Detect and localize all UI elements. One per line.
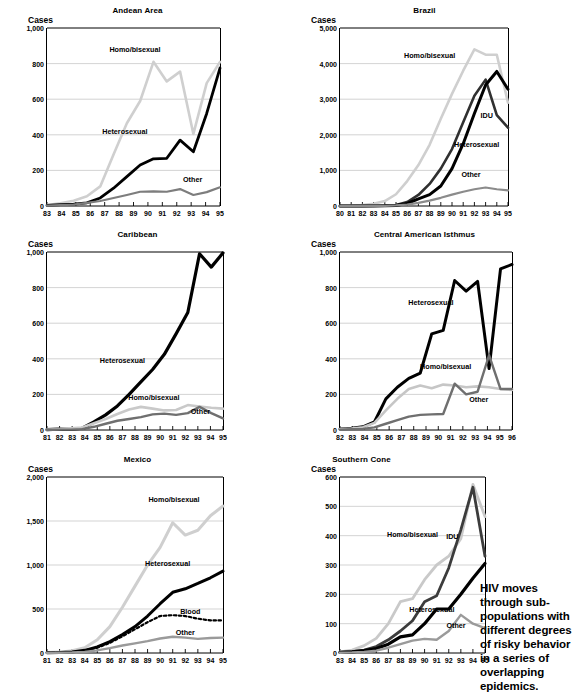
x-tick-label: 91 (169, 657, 177, 664)
x-tick-label: 94 (493, 210, 501, 217)
x-tick-label: 92 (181, 657, 189, 664)
x-tick-label: 82 (56, 657, 64, 664)
series-line (340, 71, 508, 206)
y-tick-label: 0 (40, 203, 44, 210)
x-tick-label: 94 (484, 434, 492, 441)
x-tick-label: 80 (336, 210, 344, 217)
x-tick-label: 87 (119, 657, 127, 664)
x-tick-label: 84 (81, 434, 89, 441)
plot-svg (47, 252, 223, 430)
chart-panel-brazil: Brazil Cases 01,0002,0003,0004,0005,0008… (291, 6, 582, 216)
y-tick-label: 5,000 (319, 25, 337, 32)
x-tick-label: 95 (219, 657, 227, 664)
x-tick-label: 84 (348, 657, 356, 664)
chart-panel-andean-area: Andean Area Cases 02004006008001,0008384… (0, 6, 291, 216)
x-tick-label: 84 (81, 657, 89, 664)
x-tick-label: 87 (119, 434, 127, 441)
chart-panel-mexico: Mexico Cases 05001,0001,5002,00081828384… (0, 455, 291, 654)
series-label: Other (191, 407, 210, 416)
x-tick-label: 86 (385, 434, 393, 441)
x-tick-label: 82 (358, 210, 366, 217)
y-tick-label: 200 (32, 167, 44, 174)
chart-title: Central American Isthmus (279, 230, 570, 239)
plot-area-mexico: 05001,0001,5002,000818283848586878889909… (46, 477, 224, 653)
y-tick-label: 600 (325, 320, 337, 327)
x-tick-label: 90 (448, 210, 456, 217)
series-label: Other (176, 628, 195, 637)
x-tick-label: 84 (381, 210, 389, 217)
x-tick-label: 83 (68, 657, 76, 664)
series-label: Blood (180, 607, 200, 616)
y-tick-label: 800 (325, 284, 337, 291)
y-tick-label: 0 (40, 427, 44, 434)
x-tick-label: 85 (392, 210, 400, 217)
x-tick-label: 82 (336, 434, 344, 441)
series-label: Heterosexual (454, 140, 499, 149)
x-tick-label: 92 (459, 434, 467, 441)
x-tick-label: 89 (437, 210, 445, 217)
y-axis-name: Cases (28, 464, 53, 474)
series-label: Homo/bisexual (148, 495, 199, 504)
series-line (47, 615, 223, 653)
series-line (47, 253, 223, 430)
x-tick-label: 87 (384, 657, 392, 664)
figure-caption: HIV moves through sub-populations with d… (480, 581, 580, 693)
y-tick-label: 4,000 (319, 60, 337, 67)
x-tick-label: 88 (131, 657, 139, 664)
y-axis-name: Cases (311, 15, 336, 25)
x-tick-label: 88 (131, 434, 139, 441)
series-label: Other (461, 170, 480, 179)
x-tick-label: 87 (101, 210, 109, 217)
x-tick-label: 83 (336, 657, 344, 664)
x-tick-label: 89 (130, 210, 138, 217)
series-label: Other (183, 175, 202, 184)
x-tick-label: 84 (361, 434, 369, 441)
y-tick-label: 0 (333, 650, 337, 657)
y-tick-label: 800 (32, 284, 44, 291)
x-tick-label: 90 (144, 210, 152, 217)
y-tick-label: 200 (32, 391, 44, 398)
x-tick-label: 93 (194, 434, 202, 441)
x-tick-label: 88 (397, 657, 405, 664)
series-line (340, 385, 512, 430)
x-tick-label: 92 (173, 210, 181, 217)
x-tick-label: 89 (409, 657, 417, 664)
x-tick-label: 94 (469, 657, 477, 664)
series-label: Heterosexual (409, 605, 454, 614)
x-tick-label: 94 (202, 210, 210, 217)
x-tick-label: 83 (348, 434, 356, 441)
series-label: Heterosexual (408, 298, 453, 307)
y-tick-label: 2,000 (26, 474, 44, 481)
plot-area-caribbean: 02004006008001,0008182838485868788899091… (46, 252, 224, 430)
chart-title: Andean Area (0, 6, 283, 15)
series-line (47, 506, 223, 653)
y-axis-name: Cases (28, 239, 53, 249)
chart-panel-central-american-isthmus: Central American Isthmus Cases 020040060… (291, 230, 582, 440)
y-tick-label: 500 (32, 606, 44, 613)
y-tick-label: 0 (40, 650, 44, 657)
y-tick-label: 200 (325, 591, 337, 598)
x-tick-label: 83 (43, 210, 51, 217)
y-tick-label: 100 (325, 620, 337, 627)
x-tick-label: 85 (373, 434, 381, 441)
x-tick-label: 95 (504, 210, 512, 217)
x-tick-label: 81 (347, 210, 355, 217)
x-tick-label: 85 (72, 210, 80, 217)
chart-panel-caribbean: Caribbean Cases 02004006008001,000818283… (0, 230, 291, 440)
x-tick-label: 89 (144, 657, 152, 664)
series-line (47, 68, 220, 205)
x-tick-label: 93 (187, 210, 195, 217)
y-tick-label: 800 (32, 60, 44, 67)
y-tick-label: 400 (32, 355, 44, 362)
y-tick-label: 600 (32, 320, 44, 327)
x-tick-label: 86 (86, 210, 94, 217)
x-tick-label: 95 (496, 434, 504, 441)
x-tick-label: 92 (470, 210, 478, 217)
y-tick-label: 1,000 (26, 562, 44, 569)
y-tick-label: 1,000 (26, 25, 44, 32)
series-label: Heterosexual (102, 127, 147, 136)
plot-area-southern-cone: 0100200300400500600838485868788899091929… (339, 477, 486, 653)
x-tick-label: 86 (106, 434, 114, 441)
y-axis-name: Cases (28, 15, 53, 25)
